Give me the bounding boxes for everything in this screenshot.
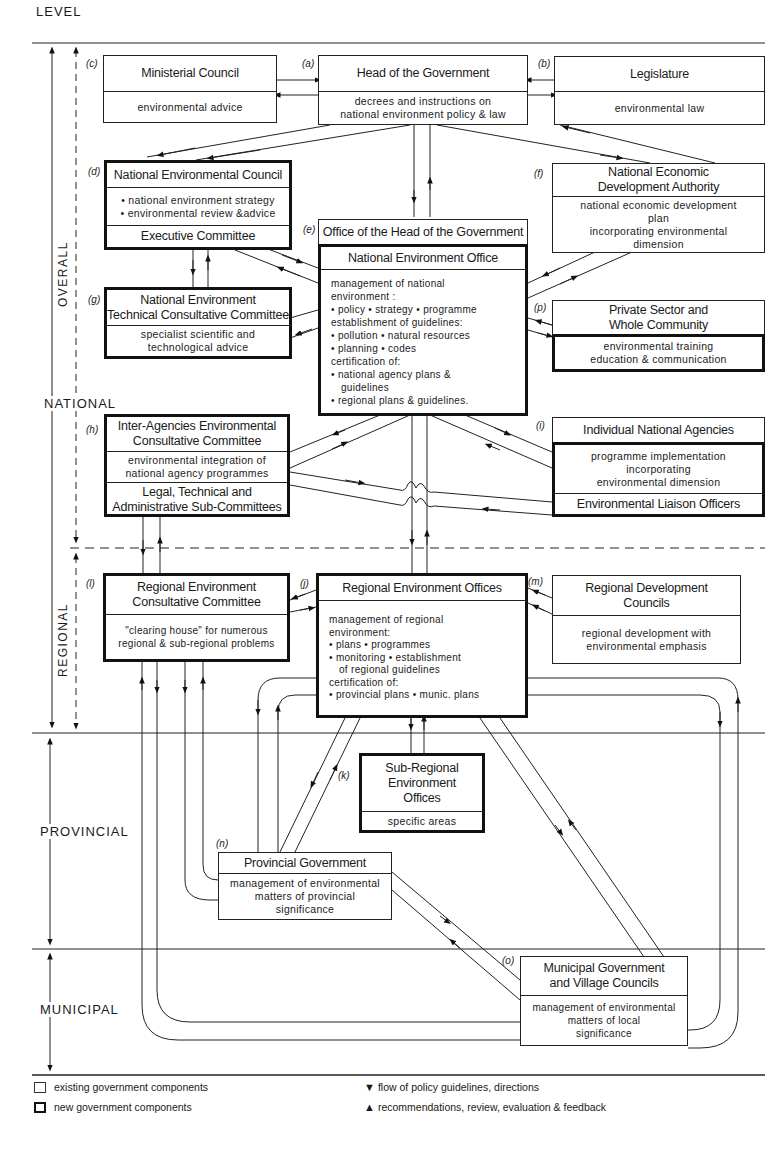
node-tag-j: (j): [300, 578, 309, 589]
node-body-line: • environmental review &advice: [120, 207, 275, 220]
node-body-line: regional & sub-regional problems: [118, 637, 274, 650]
node-title-line: Councils: [623, 596, 669, 611]
node-body-line: technological advice: [148, 341, 249, 354]
node-body-line: establishment of guidelines:: [331, 316, 463, 329]
node-body-line: significance: [276, 903, 334, 916]
node-tag-g: (g): [88, 294, 100, 305]
node-title: National Environmental Council: [107, 163, 289, 187]
node-title-line: National Economic: [608, 165, 709, 180]
node-body-line: • national agency plans &: [331, 368, 451, 381]
legend-existing-label: existing government components: [54, 1081, 208, 1093]
up-arrow-icon: ▲: [364, 1101, 375, 1113]
node-tag-d: (d): [88, 166, 100, 177]
node-body-line: • planning • codes: [331, 342, 416, 355]
node-body-line: management of national: [331, 277, 445, 290]
node-tag-c: (c): [86, 58, 98, 69]
node-title-line: Development Authority: [598, 180, 720, 195]
node-body-line: environmental dimension: [597, 476, 721, 489]
node-footer-line: Administrative Sub-Committees: [112, 500, 281, 515]
legend-existing: existing government components: [34, 1081, 208, 1093]
node-title: Regional Environment Offices: [319, 576, 525, 600]
node-individual-national-agencies: Individual National Agencies: [552, 417, 765, 443]
node-tag-f: (f): [534, 168, 543, 179]
node-title-line: Inter-Agencies Environmental: [118, 419, 276, 434]
node-municipal-government: Municipal Government and Village Council…: [520, 956, 688, 1046]
node-title-line: Regional Development: [585, 581, 707, 596]
node-private-sector: Private Sector and Whole Community: [552, 300, 765, 336]
node-title-line: Sub-Regional: [385, 761, 458, 776]
node-body-line: programme implementation: [591, 450, 726, 463]
node-legislature: Legislature environmental law: [554, 56, 765, 125]
node-body-line: management of environmental: [532, 1001, 675, 1014]
node-ministerial-council: Ministerial Council environmental advice: [103, 55, 277, 123]
node-body-line: management of regional: [329, 614, 443, 627]
node-body-line: • monitoring • establishment: [329, 652, 461, 665]
node-tag-m: (m): [528, 576, 543, 587]
node-body-line: plan: [648, 212, 669, 225]
node-office-of-head: Office of the Head of the Government: [318, 219, 528, 245]
node-title: National Environment Office: [321, 247, 525, 269]
legend-down-label: flow of policy guidelines, directions: [378, 1081, 539, 1093]
node-body-line: national agency programmes: [125, 467, 268, 480]
node-body-line: • plans • programmes: [329, 639, 430, 652]
node-tag-h: (h): [86, 424, 98, 435]
node-body-line: significance: [576, 1027, 632, 1040]
node-tag-k: (k): [338, 770, 350, 781]
node-tag-b: (b): [538, 58, 550, 69]
level-header: LEVEL: [34, 4, 83, 19]
node-tag-n: (n): [216, 838, 228, 849]
node-body-line: regional development with: [582, 627, 712, 640]
node-head-of-government: Head of the Government decrees and instr…: [318, 55, 528, 125]
node-body-line: incorporating: [626, 463, 691, 476]
node-title-line: National Environment: [140, 293, 256, 308]
node-body-line: environmental integration of: [128, 454, 266, 467]
node-tag-a: (a): [302, 58, 314, 69]
node-body-line: of regional guidelines: [329, 664, 440, 677]
level-label-national: NATIONAL: [42, 396, 118, 411]
node-body-line: environment :: [331, 290, 396, 303]
node-regional-development-councils: Regional Development Councils regional d…: [552, 575, 741, 664]
node-body-line: "clearing house" for numerous: [125, 624, 268, 637]
node-body-line: • regional plans & guidelines.: [331, 394, 469, 407]
node-tag-p: (p): [534, 302, 546, 313]
node-body-line: environment:: [329, 627, 390, 640]
node-body-line: certification of:: [331, 355, 401, 368]
node-footer: Executive Committee: [107, 225, 289, 247]
node-title-line: Private Sector and: [609, 303, 708, 318]
existing-box-icon: [34, 1082, 46, 1093]
node-tag-l: (l): [86, 578, 95, 589]
new-box-icon: [34, 1102, 46, 1113]
level-label-provincial: PROVINCIAL: [38, 824, 131, 839]
node-body-line: • pollution • natural resources: [331, 329, 470, 342]
node-tag-o: (o): [502, 955, 514, 966]
node-body-line: national environment policy & law: [340, 108, 506, 121]
node-private-sector-role: environmental training education & commu…: [552, 334, 765, 372]
node-sub-regional-offices: Sub-Regional Environment Offices specifi…: [359, 753, 485, 833]
node-body-line: management of environmental: [230, 877, 380, 890]
node-title-line: Consultative Committee: [132, 595, 260, 610]
node-title-line: Regional Environment: [137, 580, 256, 595]
node-body-line: certification of:: [329, 677, 399, 690]
level-label-municipal: MUNICIPAL: [38, 1002, 121, 1017]
node-body-line: matters of local: [568, 1014, 641, 1027]
node-footer: Environmental Liaison Officers: [555, 493, 762, 514]
node-title-line: Municipal Government: [543, 961, 664, 976]
legend-new: new government components: [34, 1101, 192, 1113]
node-title: Head of the Government: [319, 56, 527, 91]
node-title-line: Technical Consultative Committee: [107, 308, 289, 323]
node-title-line: and Village Councils: [549, 976, 658, 991]
node-header: Office of the Head of the Government: [319, 220, 527, 244]
node-tag-i: (i): [536, 420, 545, 431]
node-tag-e: (e): [303, 224, 315, 235]
node-title-line: Offices: [403, 791, 440, 806]
node-national-economic-development-authority: National Economic Development Authority …: [552, 163, 765, 253]
node-body-line: • policy • strategy • programme: [331, 303, 477, 316]
node-body-line: environmental emphasis: [586, 640, 706, 653]
node-body-line: environmental training: [604, 340, 714, 353]
node-title-line: Whole Community: [609, 318, 708, 333]
legend-down-arrow: ▼ flow of policy guidelines, directions: [364, 1081, 539, 1093]
legend-up-arrow: ▲ recommendations, review, evaluation & …: [364, 1101, 606, 1113]
legend-up-label: recommendations, review, evaluation & fe…: [378, 1101, 606, 1113]
node-title: Legislature: [555, 57, 764, 91]
node-regional-environment-offices: Regional Environment Offices management …: [316, 573, 528, 718]
